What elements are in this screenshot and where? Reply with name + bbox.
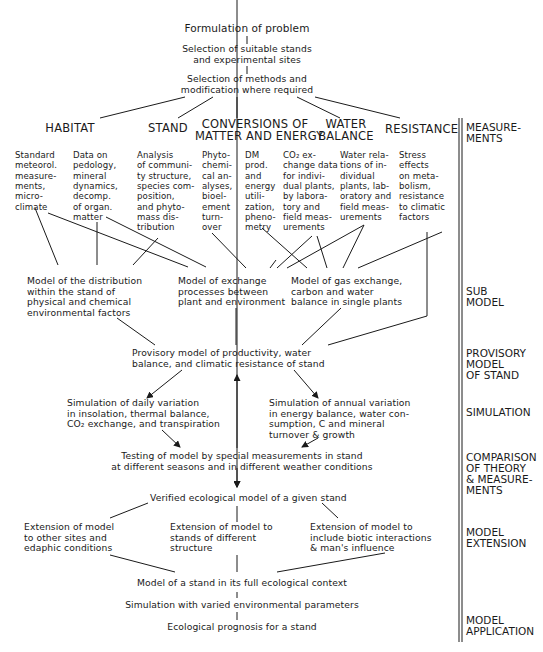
measurement-co2-exchange: CO₂ ex- change data for indivi- dual pla… xyxy=(283,150,338,233)
model-testing: Testing of model by special measurements… xyxy=(107,451,377,472)
measurement-community-structure: Analysis of communi- ty structure, speci… xyxy=(137,150,194,233)
measurement-phytochemical: Phyto- chemi- cal an- alyses, bioel- eme… xyxy=(202,150,232,233)
site-selection: Selection of suitable stands and experim… xyxy=(147,44,347,65)
ecological-modeling-flowchart: Formulation of problem Selection of suit… xyxy=(0,0,543,652)
measurement-pedology: Data on pedology, mineral dynamics, deco… xyxy=(73,150,118,222)
category-water-balance: WATER BALANCE xyxy=(318,118,374,142)
extension-structure: Extension of model to stands of differen… xyxy=(170,522,273,554)
stage-label-provisory-model: PROVISORY MODEL OF STAND xyxy=(466,348,526,381)
submodel-exchange-processes: Model of exchange processes between plan… xyxy=(178,276,285,308)
full-context-model: Model of a stand in its full ecological … xyxy=(107,578,377,589)
submodel-gas-exchange: Model of gas exchange, carbon and water … xyxy=(291,276,402,308)
verified-model: Verified ecological model of a given sta… xyxy=(150,493,347,504)
simulation-annual: Simulation of annual variation in energy… xyxy=(269,398,410,440)
extension-sites: Extension of model to other sites and ed… xyxy=(24,522,114,554)
connector-lines xyxy=(0,0,543,652)
stage-label-sub-model: SUB MODEL xyxy=(466,286,504,308)
category-resistance: RESISTANCE xyxy=(385,123,457,135)
extension-biotic: Extension of model to include biotic int… xyxy=(310,522,432,554)
stage-label-measurements: MEASURE- MENTS xyxy=(466,122,521,144)
provisory-model: Provisory model of productivity, water b… xyxy=(132,348,325,369)
category-habitat: HABITAT xyxy=(40,122,100,134)
simulation-daily: Simulation of daily variation in insolat… xyxy=(67,398,220,430)
submodel-distribution: Model of the distribution within the sta… xyxy=(27,276,142,318)
measurement-dm-production: DM prod. and energy utili- zation, pheno… xyxy=(245,150,276,233)
measurement-meteorology: Standard meteorol. measure- ments, micro… xyxy=(15,150,57,212)
stage-label-model-application: MODEL APPLICATION xyxy=(466,615,534,637)
category-stand: STAND xyxy=(138,122,198,134)
stage-label-model-extension: MODEL EXTENSION xyxy=(466,527,526,549)
stage-label-simulation: SIMULATION xyxy=(466,407,531,418)
varied-simulation: Simulation with varied environmental par… xyxy=(107,600,377,611)
stage-label-comparison: COMPARISON OF THEORY & MEASURE- MENTS xyxy=(466,452,537,496)
method-selection: Selection of methods and modification wh… xyxy=(147,74,347,95)
measurement-stress-effects: Stress effects on meta- bolism, resistan… xyxy=(399,150,445,222)
measurement-water-relations: Water rela- tions of in- dividual plants… xyxy=(340,150,391,222)
problem-formulation: Formulation of problem xyxy=(147,22,347,34)
ecological-prognosis: Ecological prognosis for a stand xyxy=(107,622,377,633)
category-conversions: CONVERSIONS OF MATTER AND ENERGY xyxy=(195,118,315,142)
